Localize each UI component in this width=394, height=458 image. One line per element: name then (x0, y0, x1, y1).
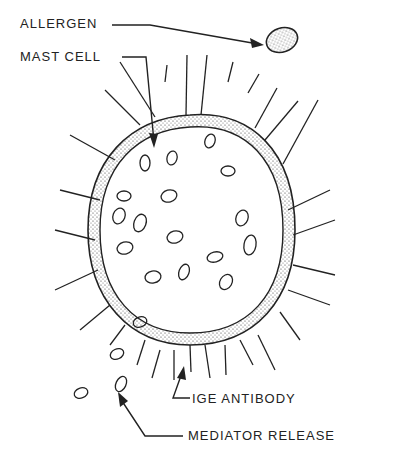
cell-interior (100, 127, 283, 333)
mast-cell-illustration (0, 0, 394, 458)
allergen-label: ALLERGEN (20, 16, 97, 31)
allergen-particle (263, 23, 301, 56)
mast-cell-label: MAST CELL (20, 49, 101, 64)
mediator-release-label: MEDIATOR RELEASE (188, 428, 335, 443)
ige-antibody-label: IGE ANTIBODY (192, 391, 296, 406)
diagram-canvas: ALLERGEN MAST CELL IGE ANTIBODY MEDIATOR… (0, 0, 394, 458)
released-mediators (73, 347, 129, 401)
